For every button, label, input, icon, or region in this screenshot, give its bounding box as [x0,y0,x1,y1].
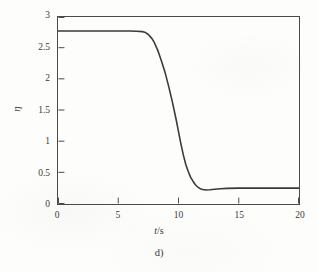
y-axis-label: η [10,106,22,111]
ytick-label-2: 2 [28,74,50,84]
xtick-label-20: 20 [295,211,305,221]
ytick-label-0-5: 0.5 [28,169,50,179]
ytick-label-1-5: 1.5 [28,106,50,116]
ytick-label-3: 3 [28,11,50,21]
figure-container: 0 0.5 1 1.5 2 2.5 3 0 5 10 15 20 η t/s d… [0,0,318,272]
figure-caption: d) [0,247,318,258]
plot-area [57,16,300,205]
xtick-label-15: 15 [235,211,245,221]
xtick-label-0: 0 [55,211,60,221]
x-axis-label-unit: /s [157,225,164,236]
x-axis-ticks [58,198,298,204]
ytick-label-2-5: 2.5 [28,43,50,53]
data-series-eta [58,31,299,190]
xtick-label-10: 10 [174,211,184,221]
ytick-label-0: 0 [28,200,50,210]
xtick-label-5: 5 [115,211,120,221]
ytick-label-1: 1 [28,137,50,147]
y-axis-ticks [58,17,64,203]
chart-canvas [58,17,299,204]
x-axis-label: t/s [0,225,318,236]
